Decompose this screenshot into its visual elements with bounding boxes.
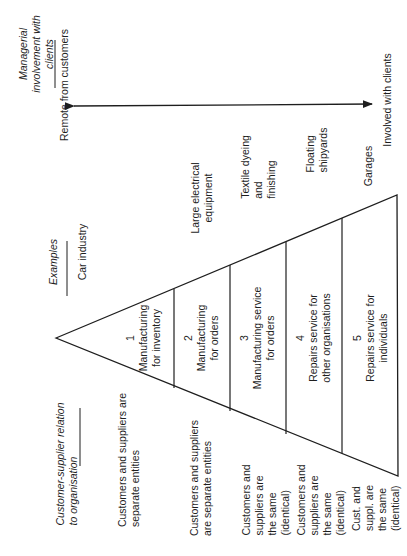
section-1-manufacturing-inventory: 1 Manufacturing for inventory xyxy=(124,305,163,372)
example-garages: Garages xyxy=(362,146,375,186)
example-floating-shipyards: Floating shipyards xyxy=(304,128,330,173)
relation-line: separate entities xyxy=(129,393,142,527)
relation-line: (identical) xyxy=(389,485,402,531)
section-line: Manufacturing xyxy=(195,305,208,372)
example-large-electrical-equipment: Large electrical equipment xyxy=(189,162,215,233)
relation-line: Customers and suppliers xyxy=(188,420,201,536)
relation-heading: Customer-supplier relation to organisati… xyxy=(54,403,80,526)
section-5-repairs-individuals: 5 Repairs service for individuals xyxy=(351,294,390,382)
relation-line: Cust. and xyxy=(350,485,363,531)
section-4-repairs-organisations: 4 Repairs service for other organisation… xyxy=(294,293,333,382)
section-number: 2 xyxy=(182,305,195,372)
section-line: for inventory xyxy=(150,305,163,372)
relation-line: are separate entities xyxy=(201,420,214,536)
section-line: other organisations xyxy=(320,293,333,382)
relation-identical-4: Customers and suppliers are the same (id… xyxy=(295,464,347,535)
involvement-double-arrow xyxy=(74,104,372,106)
example-line: Textile dyeing xyxy=(239,135,252,199)
section-number: 3 xyxy=(238,287,251,390)
section-number: 5 xyxy=(351,294,364,382)
section-line: Manufacturing xyxy=(137,305,150,372)
involved-with-clients-label: Involved with clients xyxy=(381,53,394,146)
example-line: and xyxy=(252,135,265,199)
pyramid-triangle xyxy=(56,195,398,476)
section-line: Repairs service for xyxy=(307,293,320,382)
relation-line: suppliers are xyxy=(308,464,321,535)
relation-identical-3: Customers and suppliers are the same (id… xyxy=(240,464,292,535)
relation-line: (identical) xyxy=(279,464,292,535)
relation-line: (identical) xyxy=(334,464,347,535)
example-line: Large electrical xyxy=(189,162,202,233)
heading-line: involvement with xyxy=(30,15,43,93)
relation-line: Customers and suppliers are xyxy=(116,393,129,527)
section-2-manufacturing-orders: 2 Manufacturing for orders xyxy=(182,305,221,372)
example-line: Floating xyxy=(304,128,317,173)
example-line: equipment xyxy=(202,162,215,233)
section-line: for orders xyxy=(208,305,221,372)
managerial-involvement-heading: Managerial involvement with clients xyxy=(17,15,56,93)
relation-line: Customers and xyxy=(240,464,253,535)
section-line: Manufacturing service xyxy=(251,287,264,390)
section-number: 4 xyxy=(294,293,307,382)
section-line: individuals xyxy=(377,294,390,382)
section-3-manufacturing-service: 3 Manufacturing service for orders xyxy=(238,287,277,390)
relation-line: suppliers are xyxy=(253,464,266,535)
example-line: shipyards xyxy=(317,128,330,173)
remote-from-customers-label: Remote from customers xyxy=(58,29,71,141)
heading-line: Managerial xyxy=(17,15,30,93)
relation-line: the same xyxy=(266,464,279,535)
example-car-industry: Car industry xyxy=(76,224,89,281)
example-textile-dyeing: Textile dyeing and finishing xyxy=(239,135,278,199)
customer-supplier-pyramid-diagram: Managerial involvement with clients Remo… xyxy=(0,0,407,556)
relation-line: suppl. are xyxy=(363,485,376,531)
relation-line: the same xyxy=(321,464,334,535)
section-number: 1 xyxy=(124,305,137,372)
examples-heading: Examples xyxy=(47,239,60,285)
heading-line: Customer-supplier relation xyxy=(54,403,67,526)
section-line: for orders xyxy=(264,287,277,390)
relation-separate-entities-1: Customers and suppliers are separate ent… xyxy=(116,393,142,527)
relation-line: Customers and xyxy=(295,464,308,535)
relation-separate-entities-2: Customers and suppliers are separate ent… xyxy=(188,420,214,536)
section-line: Repairs service for xyxy=(364,294,377,382)
example-line: finishing xyxy=(265,135,278,199)
relation-identical-5: Cust. and suppl. are the same (identical… xyxy=(350,485,402,531)
relation-line: the same xyxy=(376,485,389,531)
heading-line: to organisation xyxy=(67,403,80,526)
heading-line: clients xyxy=(43,15,56,93)
